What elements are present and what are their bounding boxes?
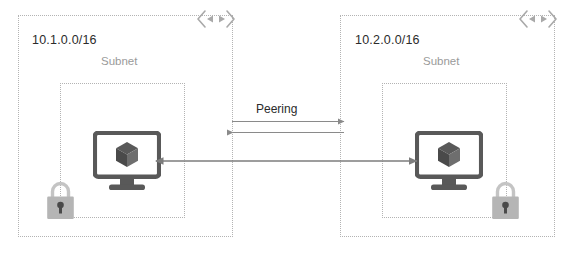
- peering-label: Peering: [256, 102, 297, 116]
- subnet-label-left: Subnet: [101, 55, 137, 67]
- virtual-machine-icon-right: [415, 131, 483, 193]
- subnet-label-right: Subnet: [423, 55, 459, 67]
- bidirectional-arrow-icon-right: [518, 8, 558, 30]
- virtual-machine-icon-left: [93, 131, 161, 193]
- cidr-label-left: 10.1.0.0/16: [32, 33, 97, 47]
- diagram-canvas: 10.1.0.0/16 Subnet: [0, 0, 572, 253]
- cidr-label-right: 10.2.0.0/16: [355, 33, 420, 47]
- bidirectional-arrow-icon-left: [196, 8, 236, 30]
- lock-icon-left: [44, 179, 77, 221]
- lock-icon-right: [489, 179, 522, 221]
